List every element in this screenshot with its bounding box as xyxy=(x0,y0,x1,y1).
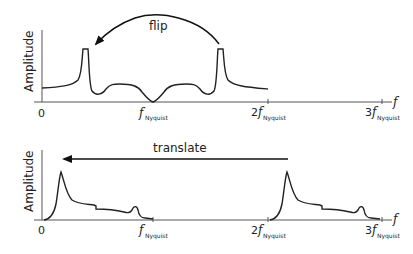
top-spectrum-curve xyxy=(42,49,268,102)
top-tick-0: 0 xyxy=(38,107,45,120)
bottom-tick-0: 0 xyxy=(38,224,45,237)
bottom-tick-fnyquist-label: f Nyquist xyxy=(138,223,168,240)
bottom-baseband-curve xyxy=(44,172,153,220)
top-tick-2fnyquist: 2 f Nyquist xyxy=(251,105,286,122)
top-x-axis-symbol: f xyxy=(392,95,400,109)
flip-label: flip xyxy=(149,19,168,33)
aliasing-diagram: f Amplitude flip 0 f Nyquist 2 f Nyquist… xyxy=(0,0,413,254)
svg-text:Nyquist: Nyquist xyxy=(263,232,286,240)
svg-text:2: 2 xyxy=(251,106,258,119)
bottom-panel: f Amplitude translate 0 f Nyquist 2 f Ny… xyxy=(22,141,400,240)
svg-text:2: 2 xyxy=(251,224,258,237)
bottom-x-axis-symbol: f xyxy=(392,212,400,226)
bottom-shifted-curve xyxy=(270,172,380,220)
top-tick-fnyquist: f Nyquist xyxy=(138,106,168,122)
top-y-axis-label: Amplitude xyxy=(22,31,36,93)
svg-text:Nyquist: Nyquist xyxy=(145,232,168,240)
bottom-tick-2fnyquist-label: 2 f Nyquist xyxy=(251,223,286,240)
svg-text:3: 3 xyxy=(365,106,372,119)
svg-text:3: 3 xyxy=(365,224,372,237)
svg-text:Nyquist: Nyquist xyxy=(377,114,400,122)
svg-text:Nyquist: Nyquist xyxy=(263,114,286,122)
top-panel: f Amplitude flip 0 f Nyquist 2 f Nyquist… xyxy=(22,15,400,122)
svg-text:Nyquist: Nyquist xyxy=(377,232,400,240)
svg-text:Nyquist: Nyquist xyxy=(145,114,168,122)
bottom-y-axis-label: Amplitude xyxy=(22,151,36,213)
translate-label: translate xyxy=(153,141,207,155)
